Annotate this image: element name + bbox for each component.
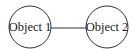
- node-label: Object 1: [9, 20, 52, 34]
- node-label: Object 2: [86, 20, 129, 34]
- diagram-canvas: Object 1 Object 2: [0, 0, 137, 52]
- node-object-2[interactable]: Object 2: [86, 6, 129, 48]
- node-object-1[interactable]: Object 1: [9, 6, 52, 48]
